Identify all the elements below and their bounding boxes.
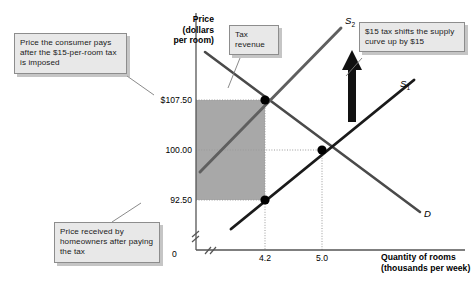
y-axis-title-line1: Price bbox=[160, 14, 214, 25]
point-consumer-price bbox=[260, 95, 269, 104]
y-tick-label-10000: 100.00 bbox=[140, 145, 192, 155]
y-axis-title: Price (dollars per room) bbox=[160, 14, 214, 46]
x-axis-title-line1: Quantity of rooms bbox=[381, 252, 473, 263]
point-original-equilibrium bbox=[317, 145, 326, 154]
callout-tax-revenue: Tax revenue bbox=[229, 25, 279, 55]
curve-label-s2-sub: 2 bbox=[351, 21, 355, 28]
callout-homeowner-price: Price received by homeowners after payin… bbox=[54, 222, 160, 263]
x-tick-label-50: 5.0 bbox=[307, 253, 337, 263]
origin-label: 0 bbox=[172, 249, 177, 259]
figure-canvas: Price (dollars per room) Quantity of roo… bbox=[0, 0, 474, 289]
curve-label-s1: S1 bbox=[400, 78, 410, 91]
point-homeowner-price bbox=[260, 195, 269, 204]
callout-consumer-price: Price the consumer pays after the $15-pe… bbox=[14, 33, 127, 74]
x-tick-label-42: 4.2 bbox=[250, 253, 280, 263]
y-tick-label-9250: 92.50 bbox=[140, 195, 192, 205]
curve-label-s2: S2 bbox=[345, 15, 355, 28]
x-axis-title-line2: (thousands per week) bbox=[381, 263, 473, 274]
x-axis-title: Quantity of rooms (thousands per week) bbox=[381, 252, 473, 273]
y-tick-label-10750: $107.50 bbox=[140, 95, 192, 105]
curve-label-s1-sub: 1 bbox=[406, 84, 410, 91]
y-axis-title-line2: (dollars bbox=[160, 25, 214, 36]
y-axis-title-line3: per room) bbox=[160, 35, 214, 46]
callout-supply-shift: $15 tax shifts the supply curve up by $1… bbox=[359, 22, 465, 52]
curve-label-d: D bbox=[424, 208, 431, 219]
